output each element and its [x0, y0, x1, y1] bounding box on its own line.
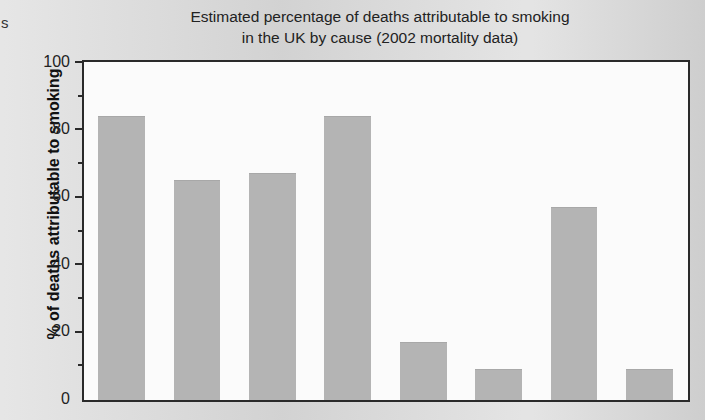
bar: [475, 369, 522, 400]
chart-title-line-1: Estimated percentage of deaths attributa…: [120, 6, 640, 27]
bar: [400, 342, 447, 400]
bar: [551, 207, 598, 400]
plot-area: Lung cancerUpper respiratory cancerOesop…: [82, 60, 690, 402]
y-axis-minor-tick: [78, 297, 84, 299]
y-axis-tick-label: 0: [24, 390, 70, 408]
chart-title: Estimated percentage of deaths attributa…: [120, 6, 640, 48]
y-axis-tick-label: 100: [24, 53, 70, 71]
bar: [174, 180, 221, 400]
page-background: s Estimated percentage of deaths attribu…: [0, 0, 705, 420]
bar: [324, 116, 371, 400]
y-axis-tick-label: 20: [24, 322, 70, 340]
y-axis-minor-tick: [78, 230, 84, 232]
y-axis-major-tick: [75, 263, 84, 265]
y-axis-minor-tick: [78, 95, 84, 97]
bars-container: Lung cancerUpper respiratory cancerOesop…: [84, 62, 688, 400]
y-axis-major-tick: [75, 61, 84, 63]
bar: [98, 116, 145, 400]
y-axis-major-tick: [75, 331, 84, 333]
chart-title-line-2: in the UK by cause (2002 mortality data): [120, 27, 640, 48]
bar: [249, 173, 296, 400]
bar: [626, 369, 673, 400]
y-axis-major-tick: [75, 196, 84, 198]
y-axis-tick-label: 60: [24, 187, 70, 205]
stray-page-text: s: [1, 14, 9, 31]
y-axis-minor-tick: [78, 364, 84, 366]
y-axis-tick-label: 80: [24, 120, 70, 138]
y-axis-minor-tick: [78, 162, 84, 164]
y-axis-tick-label: 40: [24, 255, 70, 273]
y-axis-major-tick: [75, 128, 84, 130]
